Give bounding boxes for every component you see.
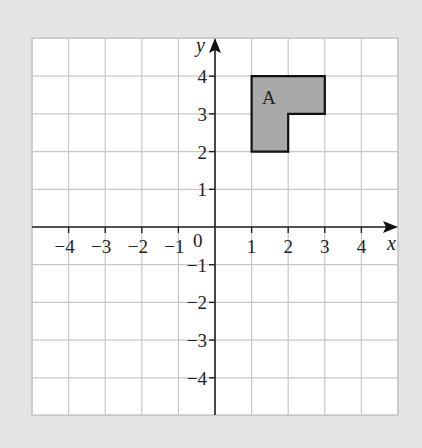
x-tick-label: 4: [357, 236, 367, 257]
x-tick-label: −4: [54, 236, 75, 257]
y-tick-label: −4: [187, 368, 208, 389]
x-tick-label: 1: [247, 236, 257, 257]
y-tick-label: 1: [198, 179, 208, 200]
x-axis-label: x: [386, 232, 396, 254]
origin-label: 0: [193, 230, 203, 251]
x-tick-label: 2: [283, 236, 293, 257]
x-tick-label: 3: [320, 236, 330, 257]
y-tick-label: 3: [198, 104, 208, 125]
x-tick-label: −3: [91, 236, 111, 257]
coordinate-diagram: A −4−3−2−11234 4321−1−2−3−4 x y 0: [0, 0, 422, 448]
y-tick-label: −1: [187, 255, 207, 276]
x-tick-label: −2: [128, 236, 148, 257]
y-tick-label: −2: [187, 292, 207, 313]
y-tick-label: −3: [187, 330, 207, 351]
y-tick-label: 2: [198, 142, 208, 163]
y-tick-label: 4: [198, 66, 208, 87]
x-tick-label: −1: [164, 236, 184, 257]
y-axis-label: y: [194, 34, 205, 57]
shape-a-label: A: [262, 87, 276, 108]
